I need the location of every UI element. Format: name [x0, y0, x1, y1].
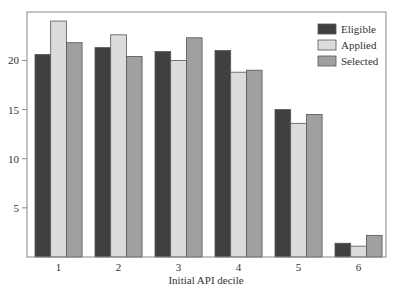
legend-swatch-applied [318, 40, 336, 50]
x-tick-label: 4 [236, 261, 242, 273]
bar-selected-6 [366, 235, 382, 257]
x-tick-label: 6 [356, 261, 362, 273]
bar-selected-5 [306, 114, 322, 257]
bar-selected-4 [246, 70, 262, 257]
legend-swatch-selected [318, 56, 336, 66]
y-tick-label: 15 [8, 104, 20, 116]
bar-selected-1 [66, 43, 82, 257]
legend: EligibleAppliedSelected [318, 23, 379, 67]
legend-label-eligible: Eligible [341, 23, 376, 35]
bar-eligible-2 [95, 48, 111, 257]
bar-applied-1 [51, 21, 67, 257]
x-tick-label: 1 [56, 261, 62, 273]
legend-label-applied: Applied [341, 39, 377, 51]
x-tick-label: 3 [176, 261, 182, 273]
bar-chart: 5101520 123456 Initial API decile Eligib… [0, 0, 397, 295]
bar-eligible-1 [35, 55, 51, 257]
bar-selected-3 [186, 38, 202, 257]
bar-eligible-3 [155, 52, 171, 257]
bar-selected-2 [126, 56, 142, 257]
x-axis: 123456 [56, 261, 362, 273]
x-tick-label: 2 [116, 261, 122, 273]
bar-eligible-5 [275, 110, 291, 257]
bar-applied-4 [231, 72, 247, 257]
bar-eligible-4 [215, 51, 231, 257]
bar-applied-3 [171, 60, 187, 257]
legend-swatch-eligible [318, 24, 336, 34]
y-tick-label: 20 [8, 54, 20, 66]
bar-applied-5 [291, 123, 307, 257]
x-axis-title: Initial API decile [168, 274, 243, 286]
y-axis: 5101520 [8, 54, 27, 213]
y-tick-label: 10 [8, 153, 20, 165]
y-tick-label: 5 [14, 202, 20, 214]
x-tick-label: 5 [296, 261, 302, 273]
bar-eligible-6 [335, 243, 351, 257]
bar-applied-6 [351, 246, 367, 257]
legend-label-selected: Selected [341, 55, 379, 67]
bar-applied-2 [111, 35, 127, 257]
